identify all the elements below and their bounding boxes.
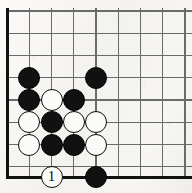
move-number-label: 1 xyxy=(42,167,62,187)
stone-black xyxy=(41,111,63,133)
go-board-diagram: 1 xyxy=(0,0,192,193)
stone-black xyxy=(18,67,40,89)
stone-black xyxy=(41,134,63,156)
stone-white xyxy=(63,111,85,133)
stone-white-move-1: 1 xyxy=(41,166,63,188)
stone-white xyxy=(41,89,63,111)
stone-black xyxy=(85,67,107,89)
stone-white xyxy=(18,134,40,156)
stone-white xyxy=(85,134,107,156)
stone-black xyxy=(63,89,85,111)
stone-black xyxy=(85,166,107,188)
stone-black xyxy=(63,134,85,156)
